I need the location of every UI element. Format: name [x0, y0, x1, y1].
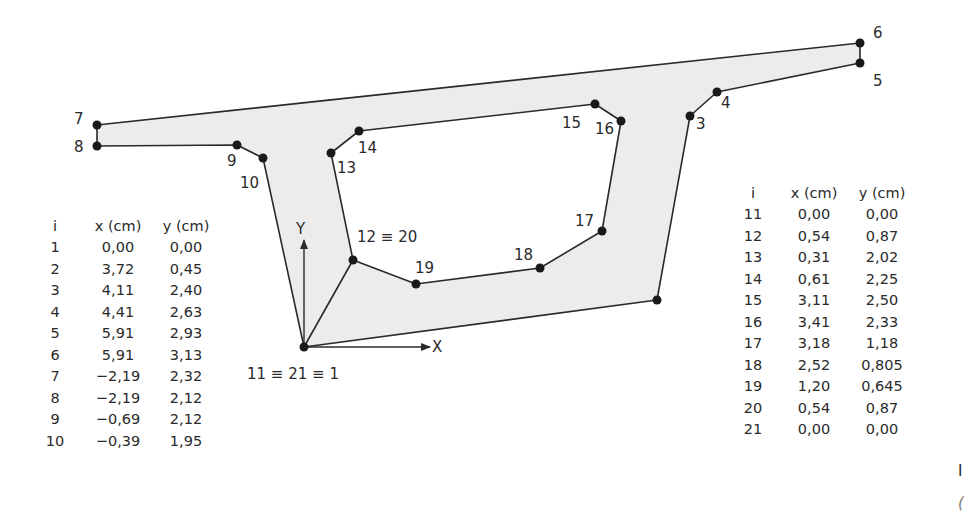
- label-point-14: 14: [358, 139, 377, 157]
- cell-index: 16: [738, 312, 778, 334]
- point-3: [686, 112, 695, 121]
- label-point-8: 8: [74, 138, 84, 156]
- y-axis-label: Y: [295, 220, 306, 238]
- cell-index: 12: [738, 226, 778, 248]
- label-point-4: 4: [721, 94, 731, 112]
- table-row: 9−0,692,12: [44, 409, 218, 431]
- table-row: 191,200,645: [738, 376, 914, 398]
- cell-y: 2,50: [850, 290, 914, 312]
- label-point-12: 12 ≡ 20: [357, 228, 417, 246]
- cell-index: 11: [738, 204, 778, 226]
- cell-x: 3,72: [82, 259, 154, 281]
- cell-index: 9: [44, 409, 82, 431]
- table-row: 120,540,87: [738, 226, 914, 248]
- cell-index: 7: [44, 366, 82, 388]
- cell-x: 0,54: [778, 226, 850, 248]
- table-row: 7−2,192,32: [44, 366, 218, 388]
- cell-x: 3,11: [778, 290, 850, 312]
- cell-x: 0,31: [778, 247, 850, 269]
- point-16: [617, 117, 626, 126]
- cell-y: 2,12: [154, 409, 218, 431]
- cell-x: 2,52: [778, 355, 850, 377]
- cell-x: 5,91: [82, 345, 154, 367]
- table-row: 200,540,87: [738, 398, 914, 420]
- point-15: [591, 100, 600, 109]
- cell-index: 1: [44, 237, 82, 259]
- point-5: [856, 59, 865, 68]
- label-point-5: 5: [873, 72, 883, 90]
- table-row: 10−0,391,95: [44, 431, 218, 453]
- label-point-19: 19: [415, 259, 434, 277]
- cell-y: 0,645: [850, 376, 914, 398]
- label-point-10: 10: [240, 174, 259, 192]
- table-row: 55,912,93: [44, 323, 218, 345]
- table-row: 140,612,25: [738, 269, 914, 291]
- cell-index: 15: [738, 290, 778, 312]
- label-point-9: 9: [227, 152, 237, 170]
- point-6: [856, 39, 865, 48]
- cell-y: 2,40: [154, 280, 218, 302]
- point-9: [233, 141, 242, 150]
- label-point-18: 18: [514, 246, 533, 264]
- cell-x: 3,41: [778, 312, 850, 334]
- table-row: 23,720,45: [44, 259, 218, 281]
- table-header-row: i x (cm) y (cm): [44, 216, 218, 237]
- cell-index: 21: [738, 419, 778, 441]
- cell-x: 0,61: [778, 269, 850, 291]
- cell-x: 0,00: [778, 204, 850, 226]
- cell-x: −2,19: [82, 388, 154, 410]
- cell-index: 19: [738, 376, 778, 398]
- cell-x: 4,11: [82, 280, 154, 302]
- table-row: 65,913,13: [44, 345, 218, 367]
- table-row: 130,312,02: [738, 247, 914, 269]
- cell-index: 3: [44, 280, 82, 302]
- cell-index: 13: [738, 247, 778, 269]
- table-row: 163,412,33: [738, 312, 914, 334]
- column-header-y: y (cm): [154, 216, 218, 237]
- cell-index: 10: [44, 431, 82, 453]
- table-header-row: i x (cm) y (cm): [738, 183, 914, 204]
- cell-y: 2,33: [850, 312, 914, 334]
- cell-index: 8: [44, 388, 82, 410]
- cell-x: 4,41: [82, 302, 154, 324]
- cell-index: 5: [44, 323, 82, 345]
- cell-index: 18: [738, 355, 778, 377]
- point-18: [536, 264, 545, 273]
- cell-index: 4: [44, 302, 82, 324]
- cell-y: 0,00: [850, 204, 914, 226]
- point-17: [598, 227, 607, 236]
- cell-x: 0,00: [778, 419, 850, 441]
- point-12: [349, 256, 358, 265]
- cell-y: 2,93: [154, 323, 218, 345]
- point-19: [412, 280, 421, 289]
- table-row: 110,000,00: [738, 204, 914, 226]
- cell-y: 0,00: [850, 419, 914, 441]
- table-row: 8−2,192,12: [44, 388, 218, 410]
- column-header-index: i: [738, 183, 778, 204]
- column-header-x: x (cm): [82, 216, 154, 237]
- label-point-7: 7: [74, 110, 84, 128]
- cell-x: 3,18: [778, 333, 850, 355]
- label-point-15: 15: [562, 114, 581, 132]
- point-8: [93, 142, 102, 151]
- cell-x: 1,20: [778, 376, 850, 398]
- cell-y: 2,25: [850, 269, 914, 291]
- cell-x: −2,19: [82, 366, 154, 388]
- point-2: [653, 296, 662, 305]
- cell-x: 0,54: [778, 398, 850, 420]
- table-row: 173,181,18: [738, 333, 914, 355]
- cell-x: 0,00: [82, 237, 154, 259]
- cell-y: 1,18: [850, 333, 914, 355]
- cell-y: 2,12: [154, 388, 218, 410]
- cropped-text-fragment: I: [958, 462, 962, 480]
- column-header-index: i: [44, 216, 82, 237]
- point-14: [355, 127, 364, 136]
- table-row: 153,112,50: [738, 290, 914, 312]
- x-axis-label: X: [432, 338, 442, 356]
- cell-y: 0,87: [850, 398, 914, 420]
- column-header-x: x (cm): [778, 183, 850, 204]
- cell-x: −0,69: [82, 409, 154, 431]
- label-point-16: 16: [595, 120, 614, 138]
- cell-x: −0,39: [82, 431, 154, 453]
- point-1: [300, 343, 309, 352]
